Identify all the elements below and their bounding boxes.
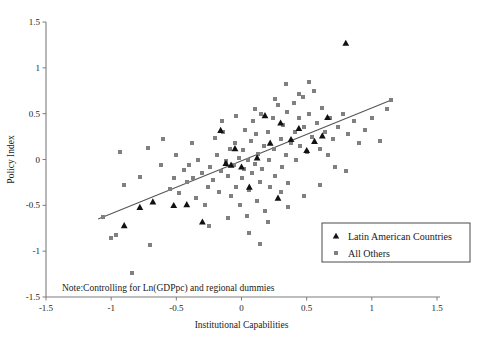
data-point-square (194, 196, 198, 200)
x-tick-label: 1 (370, 303, 375, 313)
data-point-square (258, 242, 262, 246)
data-point-square (200, 171, 204, 175)
data-point-square (262, 144, 266, 148)
data-point-square (271, 116, 275, 120)
data-point-square (352, 119, 356, 123)
data-point-square (279, 137, 283, 141)
data-point-square (249, 139, 253, 143)
data-point-square (206, 185, 210, 189)
data-point-square (226, 216, 230, 220)
data-point-triangle (311, 138, 318, 144)
data-point-square (378, 139, 382, 143)
data-point-square (344, 169, 348, 173)
data-point-square (318, 147, 322, 151)
data-point-square (253, 162, 257, 166)
data-point-square (285, 110, 289, 114)
x-tick-label: -1 (107, 303, 115, 313)
data-point-square (272, 147, 276, 151)
data-point-square (312, 89, 316, 93)
data-point-square (267, 158, 271, 162)
data-point-square (320, 106, 324, 110)
data-point-square (297, 116, 301, 120)
data-point-square (326, 153, 330, 157)
data-point-square (276, 103, 280, 107)
data-point-triangle (238, 163, 245, 169)
data-point-square (268, 185, 272, 189)
data-point-square (307, 112, 311, 116)
data-point-square (190, 141, 194, 145)
data-point-square (245, 214, 249, 218)
data-point-triangle (246, 184, 253, 190)
data-point-square (168, 187, 172, 191)
data-point-triangle (267, 140, 274, 146)
data-point-square (159, 163, 163, 167)
data-point-triangle (170, 202, 177, 208)
data-point-square (307, 80, 311, 84)
data-point-square (177, 191, 181, 195)
axis-labels-group: Policy IndexInstitutional CapabilitiesNo… (6, 135, 289, 330)
data-point-square (182, 168, 186, 172)
data-point-square (363, 128, 367, 132)
data-point-triangle (295, 125, 302, 131)
data-point-triangle (342, 40, 349, 46)
data-point-square (114, 233, 118, 237)
regression-trend-line (98, 100, 391, 219)
data-point-square (243, 128, 247, 132)
data-point-square (301, 95, 305, 99)
data-point-square (323, 130, 327, 134)
data-point-square (237, 156, 241, 160)
data-point-square (187, 163, 191, 167)
data-point-square (357, 141, 361, 145)
data-point-square (266, 130, 270, 134)
data-point-square (247, 231, 251, 235)
y-tick-label: -0.5 (26, 200, 41, 210)
data-point-square (234, 114, 238, 118)
y-tick-label: 0 (36, 155, 41, 165)
data-point-square (318, 183, 322, 187)
regression-line (98, 100, 391, 219)
data-point-square (226, 174, 230, 178)
data-point-square (263, 209, 267, 213)
data-point-triangle (217, 127, 224, 133)
data-point-triangle (121, 222, 128, 228)
x-tick-label: -0.5 (169, 303, 184, 313)
y-axis-title: Policy Index (6, 135, 16, 184)
data-point-square (286, 181, 290, 185)
y-tick-label: 0.5 (29, 109, 41, 119)
data-point-square (284, 82, 288, 86)
data-point-square (208, 165, 212, 169)
data-point-square (219, 169, 223, 173)
chart-note: Note:Controlling for Ln(GDPpc) and regio… (62, 283, 275, 294)
legend-entry-label: All Others (348, 248, 390, 259)
data-point-square (331, 137, 335, 141)
data-point-square (213, 136, 217, 140)
data-point-square (161, 137, 165, 141)
data-point-square (333, 165, 337, 169)
legend-box: Latin American CountriesAll Others (322, 223, 470, 262)
data-point-square (315, 121, 319, 125)
data-point-square (297, 92, 301, 96)
x-axis-title: Institutional Capabilities (195, 320, 289, 330)
data-point-square (203, 203, 207, 207)
y-tick-label: -1.5 (26, 292, 41, 302)
data-point-square (148, 243, 152, 247)
data-point-square (258, 180, 262, 184)
data-point-triangle (149, 198, 156, 204)
data-point-square (220, 119, 224, 123)
y-tick-label: 1.5 (29, 17, 41, 27)
data-point-square (241, 148, 245, 152)
data-point-square (259, 112, 263, 116)
y-tick-label: 1 (36, 63, 41, 73)
data-point-square (302, 125, 306, 129)
data-point-square (280, 165, 284, 169)
data-point-square (298, 144, 302, 148)
data-point-square (228, 147, 232, 151)
data-point-square (302, 194, 306, 198)
data-point-square (341, 112, 345, 116)
data-point-square (109, 236, 113, 240)
data-point-square (101, 215, 105, 219)
data-point-square (273, 174, 277, 178)
data-point-square (292, 101, 296, 105)
data-point-square (336, 125, 340, 129)
data-point-square (250, 171, 254, 175)
